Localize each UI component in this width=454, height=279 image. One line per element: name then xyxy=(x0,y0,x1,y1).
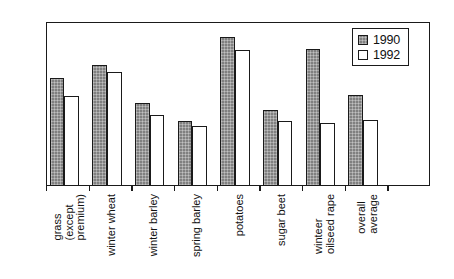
legend-item-1990: 1990 xyxy=(358,32,400,47)
bar-1990-grass-except-premium- xyxy=(50,78,65,186)
x-axis-tick-mark xyxy=(89,186,90,191)
legend-swatch-1992 xyxy=(358,50,368,60)
legend-item-1992: 1992 xyxy=(358,47,400,62)
x-axis-category-label: overallaverage xyxy=(356,194,379,234)
x-axis-category-label: winteeroilseed rape xyxy=(313,194,336,254)
bar-1992-winter-barley xyxy=(150,115,165,187)
x-axis-tick-mark xyxy=(302,186,303,191)
bar-1992-spring-barley xyxy=(192,126,207,186)
bar-1992-winter-wheat xyxy=(107,72,122,186)
bar-1992-potatoes xyxy=(235,50,250,186)
legend-label-1992: 1992 xyxy=(373,48,400,62)
bar-1990-winter-wheat xyxy=(92,65,107,186)
bar-1990-spring-barley xyxy=(178,121,193,186)
bar-1990-overall-average xyxy=(348,95,363,186)
x-axis-category-label: grass(exceptpremium) xyxy=(52,194,87,240)
x-axis-category-label: winter wheat xyxy=(106,194,118,256)
x-axis-tick-mark xyxy=(387,186,388,191)
bar-1992-winteer-oilseed-rape xyxy=(320,123,335,186)
x-axis-category-label: sugar beet xyxy=(276,194,288,246)
bar-1992-grass-except-premium- xyxy=(64,96,79,186)
chart-legend: 19901992 xyxy=(352,28,409,66)
bar-chart: 050100150200250 grass(exceptpremium)wint… xyxy=(0,0,454,279)
bar-1992-overall-average xyxy=(363,120,378,186)
x-axis-tick-mark xyxy=(259,186,260,191)
x-axis-tick-mark xyxy=(174,186,175,191)
x-axis-tick-mark xyxy=(46,186,47,191)
legend-swatch-1990 xyxy=(358,35,368,45)
x-axis-category-label: potatoes xyxy=(234,194,246,236)
x-axis-tick-mark xyxy=(217,186,218,191)
x-axis-tick-mark xyxy=(131,186,132,191)
x-axis-category-label: winter barley xyxy=(148,194,160,256)
legend-label-1990: 1990 xyxy=(373,33,400,47)
bar-1992-sugar-beet xyxy=(278,121,293,186)
bar-1990-winteer-oilseed-rape xyxy=(306,49,321,186)
bar-1990-sugar-beet xyxy=(263,110,278,186)
bar-1990-winter-barley xyxy=(135,103,150,186)
x-axis-tick-mark xyxy=(345,186,346,191)
bar-1990-potatoes xyxy=(220,37,235,186)
x-axis-category-label: spring barley xyxy=(191,194,203,257)
